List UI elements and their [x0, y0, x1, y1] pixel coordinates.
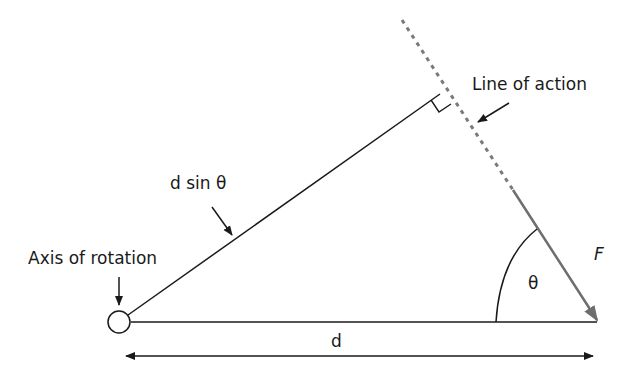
angle-label: θ	[528, 275, 538, 292]
force-arrow	[513, 190, 597, 320]
moment-arm-pointer-arrow	[212, 207, 232, 235]
axis-of-rotation-label: Axis of rotation	[28, 250, 157, 267]
line-of-action-pointer-arrow	[478, 103, 509, 122]
distance-label: d	[331, 333, 342, 350]
pivot-circle-icon	[108, 311, 130, 333]
moment-arm-label: d sin θ	[170, 175, 226, 192]
diagram-canvas	[0, 0, 637, 382]
line-of-action-label: Line of action	[472, 76, 587, 93]
torque-diagram: Line of action d sin θ Axis of rotation …	[0, 0, 637, 382]
right-angle-marker	[431, 100, 451, 112]
moment-arm-line	[128, 94, 440, 315]
force-label: F	[594, 246, 604, 263]
line-of-action-dashed	[402, 20, 513, 190]
